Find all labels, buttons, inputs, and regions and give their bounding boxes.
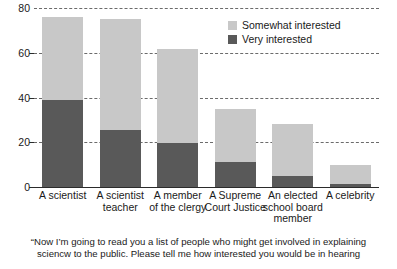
chart-legend: Somewhat interested Very interested xyxy=(228,20,341,48)
legend-label-very-interested: Very interested xyxy=(242,34,312,45)
bar-3-segment-somewhat-interested xyxy=(157,49,198,143)
bar-4 xyxy=(215,109,256,187)
y-tick-label-80: 80 xyxy=(4,3,30,14)
legend-swatch-very-interested xyxy=(228,35,237,44)
legend-swatch-somewhat-interested xyxy=(228,21,237,30)
bar-3-segment-very-interested xyxy=(157,143,198,187)
x-axis-label-2: A scientistteacher xyxy=(88,190,154,213)
x-axis-label-4: A SupremeCourt Justice xyxy=(203,190,269,213)
bar-1-segment-somewhat-interested xyxy=(42,17,83,100)
y-tick-label-0: 0 xyxy=(4,182,30,193)
x-axis-label-1: A scientist xyxy=(30,190,96,202)
x-axis-label-3: A memberof the clergy xyxy=(145,190,211,213)
y-tick-label-40: 40 xyxy=(4,93,30,104)
bar-6-segment-somewhat-interested xyxy=(330,165,371,184)
bar-1-segment-very-interested xyxy=(42,100,83,187)
bar-2-segment-somewhat-interested xyxy=(100,19,141,130)
bar-5 xyxy=(272,124,313,187)
x-axis-labels: A scientistA scientistteacherA memberof … xyxy=(34,190,379,230)
y-tick-label-20: 20 xyxy=(4,137,30,148)
bar-5-segment-somewhat-interested xyxy=(272,124,313,175)
bar-2 xyxy=(100,19,141,187)
bar-4-segment-very-interested xyxy=(215,162,256,187)
bar-6-segment-very-interested xyxy=(330,184,371,187)
legend-item-very-interested: Very interested xyxy=(228,34,341,45)
legend-item-somewhat-interested: Somewhat interested xyxy=(228,20,341,31)
x-axis-baseline xyxy=(30,187,379,188)
bar-1 xyxy=(42,17,83,187)
bar-2-segment-very-interested xyxy=(100,130,141,187)
caption-line-2: sciencw to the public. Please tell me ho… xyxy=(0,248,397,260)
bar-6 xyxy=(330,165,371,187)
legend-label-somewhat-interested: Somewhat interested xyxy=(242,20,341,31)
y-tick-label-60: 60 xyxy=(4,48,30,59)
chart-figure: 80 60 40 20 0 Somewhat interested Very i… xyxy=(0,0,397,269)
x-axis-label-6: A celebrity xyxy=(318,190,384,202)
bar-3 xyxy=(157,49,198,187)
bar-4-segment-somewhat-interested xyxy=(215,109,256,163)
bar-5-segment-very-interested xyxy=(272,176,313,187)
figure-caption: “Now I’m going to read you a list of peo… xyxy=(0,236,397,261)
caption-line-1: “Now I’m going to read you a list of peo… xyxy=(0,236,397,248)
x-axis-label-5: An electedschool boardmember xyxy=(260,190,326,225)
